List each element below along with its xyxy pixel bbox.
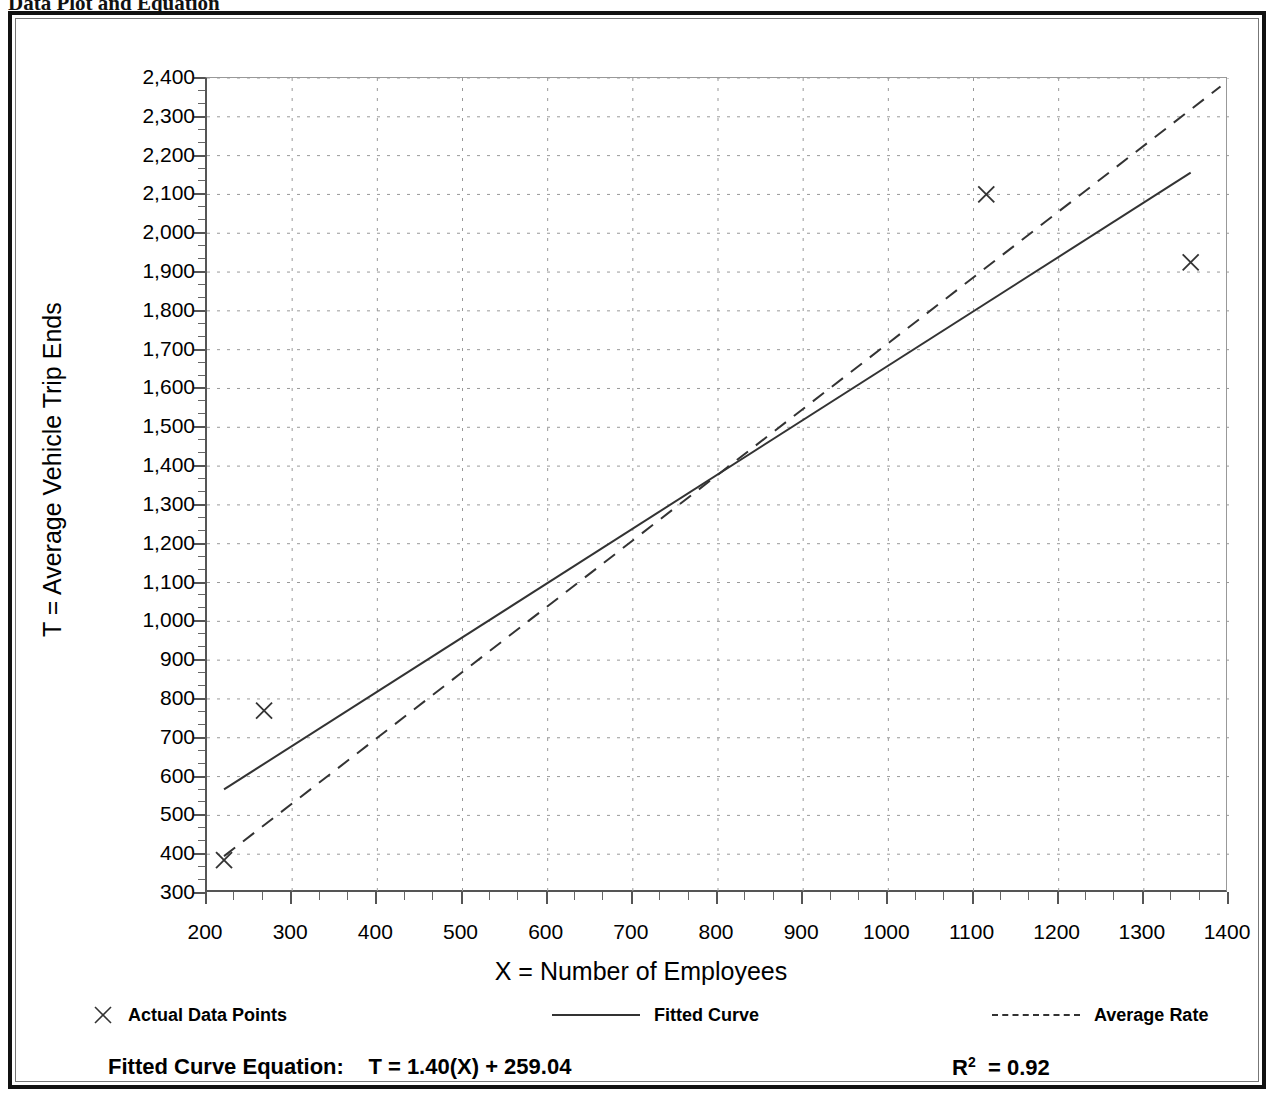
data-point-marker (978, 186, 994, 202)
y-axis-tick-major (194, 776, 205, 778)
x-axis-tick-label: 600 (501, 920, 591, 944)
x-axis-tick-label: 200 (160, 920, 250, 944)
r-squared-number: = 0.92 (988, 1055, 1050, 1080)
y-axis-tick-minor (198, 685, 205, 686)
fitted-curve-equation: Fitted Curve Equation: T = 1.40(X) + 259… (108, 1054, 571, 1080)
y-axis-tick-label: 2,400 (100, 66, 195, 87)
y-axis-tick-minor (198, 413, 205, 414)
y-axis-tick-major (194, 465, 205, 467)
x-axis-tick-minor (1028, 892, 1029, 900)
data-point-marker (216, 852, 232, 868)
x-axis-tick-minor (915, 892, 916, 900)
legend-item-average-rate: Average Rate (992, 1000, 1208, 1030)
x-axis-tick-minor (1199, 892, 1200, 900)
y-axis-tick-minor (198, 866, 205, 867)
y-axis-tick-minor (198, 362, 205, 363)
y-axis-tick-minor (198, 142, 205, 143)
document-heading: Data Plot and Equation (8, 0, 1268, 11)
x-axis-tick-minor (1113, 892, 1114, 900)
data-point-marker (256, 703, 272, 719)
y-axis-tick-minor (198, 646, 205, 647)
y-axis-tick-label: 800 (100, 687, 195, 708)
y-axis-tick-minor (198, 297, 205, 298)
x-axis-tick-major (886, 892, 888, 904)
y-axis-tick-minor (198, 336, 205, 337)
y-axis-tick-minor (198, 439, 205, 440)
y-axis-tick-minor (198, 607, 205, 608)
y-axis-tick-label: 1,800 (100, 299, 195, 320)
y-axis-tick-label: 2,100 (100, 182, 195, 203)
x-axis-tick-minor (319, 892, 320, 900)
gridlines (207, 78, 1229, 893)
y-axis-tick-label: 900 (100, 648, 195, 669)
chart-page: Data Plot and Equation T = Average Vehic… (0, 0, 1277, 1098)
y-axis-tick-major (194, 698, 205, 700)
x-axis-tick-minor (489, 892, 490, 900)
y-axis-tick-minor (198, 491, 205, 492)
y-axis-tick-label: 1,900 (100, 260, 195, 281)
x-axis-tick-minor (347, 892, 348, 900)
series-line-fitted-curve (224, 173, 1191, 790)
x-axis-tick-label: 1100 (927, 920, 1017, 944)
x-axis-tick-minor (602, 892, 603, 900)
chart-legend: Actual Data Points Fitted Curve Average … (32, 1000, 1252, 1040)
y-axis-tick-minor (198, 400, 205, 401)
x-axis-title: X = Number of Employees (12, 957, 1270, 986)
x-axis-tick-major (546, 892, 548, 904)
x-axis-tick-minor (773, 892, 774, 900)
x-axis-tick-major (716, 892, 718, 904)
y-axis-tick-label: 1,600 (100, 376, 195, 397)
x-axis-tick-label: 1300 (1097, 920, 1187, 944)
r-squared-exponent: 2 (968, 1054, 976, 1070)
y-axis-tick-label: 2,200 (100, 144, 195, 165)
y-axis-tick-major (194, 271, 205, 273)
y-axis-tick-label: 2,300 (100, 105, 195, 126)
chart-frame: T = Average Vehicle Trip Ends 3004005006… (8, 11, 1266, 1089)
legend-label-average-rate: Average Rate (1094, 1005, 1208, 1026)
y-axis-tick-label: 700 (100, 726, 195, 747)
y-axis-tick-label: 1,200 (100, 532, 195, 553)
y-axis-tick-minor (198, 827, 205, 828)
y-axis-tick-major (194, 116, 205, 118)
legend-label-fitted-curve: Fitted Curve (654, 1005, 759, 1026)
y-axis-tick-major (194, 387, 205, 389)
x-axis-tick-minor (688, 892, 689, 900)
y-axis-tick-major (194, 349, 205, 351)
y-axis-tick-minor (198, 750, 205, 751)
x-axis-tick-minor (517, 892, 518, 900)
y-axis-tick-major (194, 543, 205, 545)
y-axis-tick-minor (198, 219, 205, 220)
legend-item-fitted-curve: Fitted Curve (552, 1000, 759, 1030)
x-axis-tick-major (1227, 892, 1229, 904)
y-axis-tick-minor (198, 258, 205, 259)
x-axis-tick-minor (1000, 892, 1001, 900)
x-axis-tick-major (1142, 892, 1144, 904)
y-axis-tick-minor (198, 789, 205, 790)
x-axis-tick-minor (830, 892, 831, 900)
y-axis-tick-major (194, 310, 205, 312)
y-axis-tick-minor (198, 245, 205, 246)
x-axis-tick-major (205, 892, 207, 904)
solid-line-icon (552, 1014, 640, 1016)
y-axis-tick-minor (198, 801, 205, 802)
y-axis-tick-minor (198, 517, 205, 518)
series-lines (224, 87, 1220, 857)
y-axis-tick-minor (198, 633, 205, 634)
y-axis-tick-minor (198, 90, 205, 91)
y-axis-tick-major (194, 582, 205, 584)
y-axis-tick-label: 1,400 (100, 454, 195, 475)
series-line-average-rate (224, 87, 1220, 857)
r-squared-symbol: R (952, 1055, 968, 1080)
x-axis-tick-label: 1000 (841, 920, 931, 944)
data-point-markers (216, 186, 1199, 868)
y-axis-tick-minor (198, 452, 205, 453)
y-axis-tick-minor (198, 569, 205, 570)
x-axis-tick-major (631, 892, 633, 904)
y-axis-tick-minor (198, 206, 205, 207)
y-axis-tick-minor (198, 711, 205, 712)
y-axis-tick-label: 1,000 (100, 609, 195, 630)
equation-value: T = 1.40(X) + 259.04 (368, 1054, 571, 1079)
y-axis-tick-major (194, 737, 205, 739)
y-axis-tick-major (194, 659, 205, 661)
document-heading-left: Data Plot and Equation (8, 0, 220, 11)
